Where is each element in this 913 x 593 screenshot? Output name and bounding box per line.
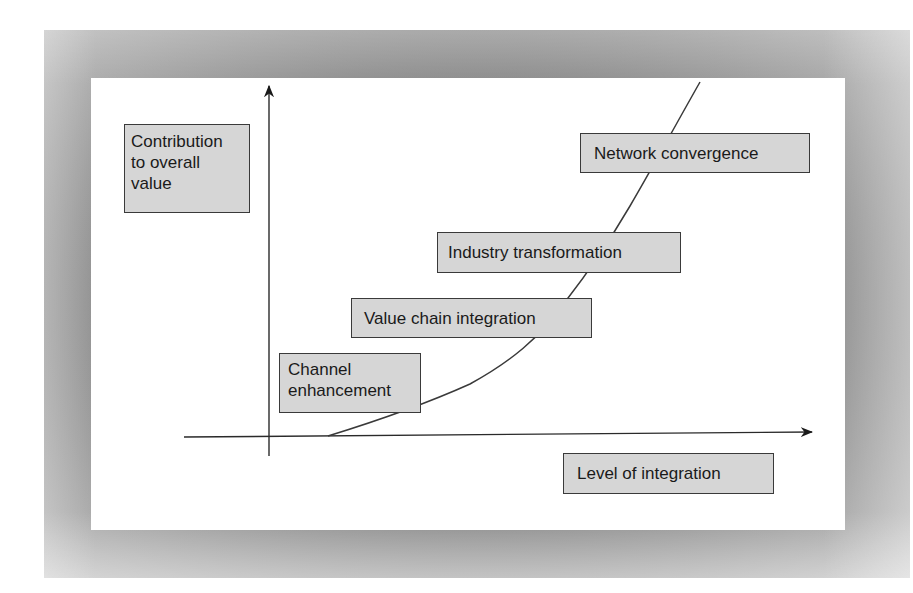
stage-label-line-1: Channel: [288, 359, 412, 380]
x-axis: [184, 432, 812, 437]
y-axis-label-line-3: value: [131, 173, 243, 194]
y-axis-label-line-2: to overall: [131, 152, 243, 173]
y-axis-label-line-1: Contribution: [131, 131, 243, 152]
diagram-plot: [0, 0, 913, 593]
x-axis-label: Level of integration: [563, 453, 774, 494]
stage-label: Network convergence: [594, 144, 758, 163]
stage-label: Value chain integration: [364, 309, 536, 328]
stage-industry-transformation: Industry transformation: [437, 232, 681, 273]
y-axis-label: Contribution to overall value: [124, 124, 250, 213]
stage-channel-enhancement: Channel enhancement: [279, 353, 421, 413]
stage-network-convergence: Network convergence: [580, 133, 810, 173]
stage-label: Industry transformation: [448, 243, 622, 262]
x-axis-label-text: Level of integration: [577, 464, 721, 483]
stage-value-chain-integration: Value chain integration: [351, 298, 592, 338]
stage-label-line-2: enhancement: [288, 380, 412, 401]
